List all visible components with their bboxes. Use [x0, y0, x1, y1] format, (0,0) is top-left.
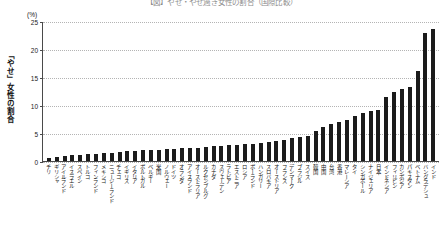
bar-slot	[296, 22, 304, 161]
x-label-slot: ベルギー	[146, 164, 154, 226]
bar-slot	[92, 22, 100, 161]
x-axis-tick-label: ポルトガル	[139, 164, 145, 226]
bar	[259, 143, 263, 161]
bar	[157, 150, 161, 161]
x-label-slot: ニュージーランド	[107, 164, 115, 226]
x-axis-tick-label: チリ	[45, 164, 51, 226]
x-axis-tick-label: チェコ	[116, 164, 122, 226]
bar-slot	[335, 22, 343, 161]
bar-slot	[249, 22, 257, 161]
bar-slot	[422, 22, 430, 161]
x-label-slot: カンボジア	[398, 164, 406, 226]
bar-slot	[374, 22, 382, 161]
x-label-slot: デンマーク	[288, 164, 296, 226]
x-label-slot: ドイツ	[170, 164, 178, 226]
bar	[63, 156, 67, 161]
bar-slot	[288, 22, 296, 161]
x-axis-tick-label: アイルランド	[61, 164, 67, 226]
bar-slot	[147, 22, 155, 161]
bar	[298, 137, 302, 161]
bar	[94, 154, 98, 161]
bar	[306, 136, 310, 161]
x-label-slot: ナイジェリア	[366, 164, 374, 226]
x-label-slot: オーストラリア	[193, 164, 201, 226]
bar	[290, 138, 294, 161]
x-axis-tick-label: ハンガリー	[257, 164, 263, 226]
x-axis-tick-label: イタリア	[132, 164, 138, 226]
bar-series	[43, 22, 439, 161]
bar-slot	[171, 22, 179, 161]
bar	[392, 92, 396, 161]
x-axis-tick-label: 中国	[320, 164, 326, 226]
x-label-slot: 韓国	[311, 164, 319, 226]
x-axis-tick-label: フィンランド	[92, 164, 98, 226]
x-axis-tick-label: 台湾	[328, 164, 334, 226]
x-axis-tick-label: インド	[430, 164, 436, 226]
bar-slot	[202, 22, 210, 161]
bar	[361, 113, 365, 161]
bar-slot	[116, 22, 124, 161]
bar-slot	[272, 22, 280, 161]
x-axis-tick-label: スウェーデン	[218, 164, 224, 226]
bar-slot	[61, 22, 69, 161]
x-label-slot: ラトビア	[225, 164, 233, 226]
x-axis-tick-label: オーストラリア	[194, 164, 200, 226]
x-axis-tick-label: ブラジル	[297, 164, 303, 226]
bar-slot	[304, 22, 312, 161]
bar	[376, 110, 380, 161]
y-axis-tick-label: 20	[31, 47, 38, 54]
plot-area: 0510152025	[42, 22, 439, 162]
bar-chart: 【図】やせ・やせ過ぎ女性の割合（国際比較） (%) 「やせ」女性の割合 0510…	[0, 0, 443, 227]
bar	[274, 141, 278, 161]
bar-slot	[233, 22, 241, 161]
bar-slot	[163, 22, 171, 161]
x-label-slot: ブラジル	[296, 164, 304, 226]
bar	[235, 145, 239, 161]
bar-slot	[155, 22, 163, 161]
x-label-slot: イスラエル	[68, 164, 76, 226]
bar-slot	[100, 22, 108, 161]
x-axis-tick-label: スペイン	[77, 164, 83, 226]
bar	[141, 150, 145, 161]
x-label-slot: ベトナム	[413, 164, 421, 226]
bar	[267, 142, 271, 161]
bar	[243, 144, 247, 161]
x-axis-tick-label: アイスランド	[187, 164, 193, 226]
bar	[329, 124, 333, 161]
x-axis-tick-label: ナイジェリア	[367, 164, 373, 226]
x-label-slot: トルコ	[83, 164, 91, 226]
x-label-slot: チェコ	[115, 164, 123, 226]
x-axis-tick-label: ポーランド	[249, 164, 255, 226]
x-label-slot: オーストリア	[272, 164, 280, 226]
bar-slot	[312, 22, 320, 161]
x-axis-tick-label: オランダ	[179, 164, 185, 226]
x-axis-tick-label: マレーシア	[344, 164, 350, 226]
x-label-slot: タイ	[351, 164, 359, 226]
x-axis-tick-label: タイ	[352, 164, 358, 226]
bar	[408, 87, 412, 161]
x-axis-tick-label: オーストリア	[273, 164, 279, 226]
bar	[337, 122, 341, 161]
bar	[353, 116, 357, 161]
y-axis-tick-label: 5	[34, 131, 38, 138]
x-label-slot: エストニア	[233, 164, 241, 226]
x-label-slot: シンガポール	[358, 164, 366, 226]
bar-slot	[241, 22, 249, 161]
x-axis-tick-label: ベトナム	[415, 164, 421, 226]
x-axis-tick-label: 香港	[336, 164, 342, 226]
x-label-slot: ノルウェー	[162, 164, 170, 226]
x-axis-tick-label: 米国	[155, 164, 161, 226]
bar-slot	[194, 22, 202, 161]
bar	[345, 120, 349, 161]
x-axis-tick-label: シンガポール	[360, 164, 366, 226]
bar-slot	[225, 22, 233, 161]
y-axis-tick-label: 25	[31, 19, 38, 26]
x-axis-tick-label: ニュージーランド	[108, 164, 114, 226]
bar-slot	[76, 22, 84, 161]
bar-slot	[131, 22, 139, 161]
x-label-slot: ルクセンブルグ	[201, 164, 209, 226]
x-label-slot: カナダ	[209, 164, 217, 226]
bar	[431, 29, 435, 161]
bar	[212, 146, 216, 161]
bar	[149, 150, 153, 161]
